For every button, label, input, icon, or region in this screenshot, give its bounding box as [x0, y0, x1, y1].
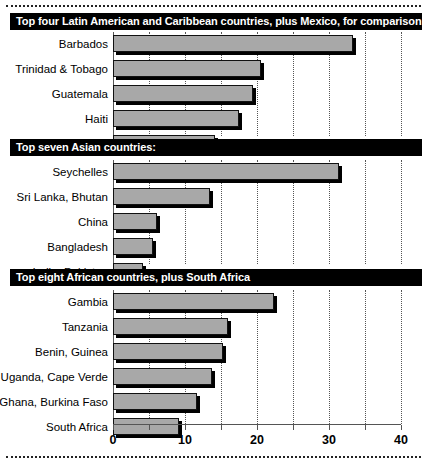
category-label: Gambia	[68, 290, 108, 315]
bar-row: Gambia	[113, 290, 401, 315]
bar-row: Haiti	[113, 107, 401, 132]
plot-area-africa: GambiaTanzaniaBenin, GuineaUganda, Cape …	[113, 290, 401, 424]
category-label: South Africa	[46, 415, 108, 440]
bar-row: Guatemala	[113, 82, 401, 107]
bar	[113, 163, 339, 180]
bar	[113, 110, 239, 127]
gridline-40	[401, 32, 402, 136]
plot-area-asia: SeychellesSri Lanka, BhutanChinaBanglade…	[113, 160, 401, 264]
bar-track	[113, 188, 401, 205]
bar-row: Barbados	[113, 32, 401, 57]
bar-track	[113, 35, 401, 52]
category-label: Tanzania	[62, 315, 108, 340]
category-label: Seychelles	[52, 160, 108, 185]
bar-row: Ghana, Burkina Faso	[113, 390, 401, 415]
group-banner-africa: Top eight African countries, plus South …	[10, 269, 422, 286]
bar-track	[113, 393, 401, 410]
x-tick-5	[149, 425, 150, 430]
x-tick-label-0: 0	[110, 433, 117, 447]
category-label: China	[78, 210, 108, 235]
bar-track	[113, 163, 401, 180]
bar-track	[113, 110, 401, 127]
bar-track	[113, 368, 401, 385]
bar	[113, 293, 274, 310]
bar-row: Trinidad & Tobago	[113, 57, 401, 82]
bar	[113, 188, 210, 205]
bar-track	[113, 293, 401, 310]
x-tick-35	[365, 425, 366, 430]
bar-track	[113, 60, 401, 77]
x-tick-label-10: 10	[178, 433, 192, 447]
x-tick-10	[185, 425, 186, 430]
bar-row: Tanzania	[113, 315, 401, 340]
x-tick-label-40: 40	[394, 433, 408, 447]
x-tick-label-30: 30	[322, 433, 336, 447]
bar-row: Sri Lanka, Bhutan	[113, 185, 401, 210]
bar	[113, 393, 197, 410]
category-label: Sri Lanka, Bhutan	[17, 185, 108, 210]
bar-row: Uganda, Cape Verde	[113, 365, 401, 390]
category-label: Guatemala	[52, 82, 108, 107]
bar-row: China	[113, 210, 401, 235]
bar-track	[113, 213, 401, 230]
category-label: Benin, Guinea	[35, 340, 108, 365]
bar	[113, 35, 353, 52]
category-label: Haiti	[85, 107, 108, 132]
gridline-40	[401, 160, 402, 264]
bar-track	[113, 343, 401, 360]
bar	[113, 238, 153, 255]
category-label: Bangladesh	[47, 235, 108, 260]
bar	[113, 343, 223, 360]
bottom-dotted-rule	[6, 456, 421, 458]
x-tick-label-20: 20	[250, 433, 264, 447]
bar-row: Bangladesh	[113, 235, 401, 260]
top-dotted-rule	[6, 5, 421, 7]
category-label: Ghana, Burkina Faso	[0, 390, 108, 415]
x-tick-25	[293, 425, 294, 430]
group-banner-asia: Top seven Asian countries:	[10, 139, 422, 156]
group-banner-latin-america: Top four Latin American and Caribbean co…	[10, 13, 422, 30]
bar-track	[113, 85, 401, 102]
plot-area-latin-america: BarbadosTrinidad & TobagoGuatemalaHaitiM…	[113, 32, 401, 136]
gridline-40	[401, 290, 402, 424]
bar-row: Seychelles	[113, 160, 401, 185]
bar	[113, 368, 212, 385]
x-tick-15	[221, 425, 222, 430]
x-tick-30	[329, 425, 330, 430]
category-label: Uganda, Cape Verde	[1, 365, 108, 390]
bar	[113, 213, 157, 230]
bar-row: Benin, Guinea	[113, 340, 401, 365]
x-tick-40	[401, 425, 402, 430]
x-tick-20	[257, 425, 258, 430]
x-axis: 010203040	[113, 424, 401, 431]
bar	[113, 85, 253, 102]
bar-chart-figure: Top four Latin American and Caribbean co…	[0, 0, 427, 464]
category-label: Barbados	[59, 32, 108, 57]
bar-track	[113, 238, 401, 255]
x-tick-0	[113, 425, 114, 430]
bar-track	[113, 318, 401, 335]
bar	[113, 60, 261, 77]
bar	[113, 318, 228, 335]
category-label: Trinidad & Tobago	[15, 57, 108, 82]
